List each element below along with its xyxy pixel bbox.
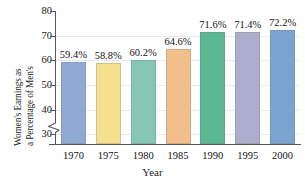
y-tick-label-80: 80 (26, 6, 52, 16)
data-label-1980: 60.2% (121, 47, 165, 58)
bar-2000 (270, 30, 295, 144)
bar-chart: Women's Earnings as a Percentage of Men'… (0, 0, 305, 191)
data-label-2000: 72.2% (261, 17, 305, 28)
y-axis-title-line-1: Women's Earnings as (13, 68, 23, 146)
y-tick-label-60: 60 (26, 55, 52, 65)
bar-1970 (61, 62, 86, 144)
y-tick-label-40: 40 (26, 105, 52, 115)
data-label-1985: 64.6% (156, 36, 200, 47)
bar-1980 (131, 60, 156, 144)
x-tick-label-2000: 2000 (261, 150, 305, 161)
bar-1995 (235, 32, 260, 144)
bar-1985 (166, 49, 191, 144)
y-tick-label-50: 50 (26, 80, 52, 90)
x-axis-line (49, 144, 301, 145)
x-axis-title: Year (0, 166, 305, 178)
bar-1990 (200, 32, 225, 144)
bar-1975 (96, 63, 121, 144)
bar-series (56, 11, 300, 144)
y-tick-label-70: 70 (26, 31, 52, 41)
